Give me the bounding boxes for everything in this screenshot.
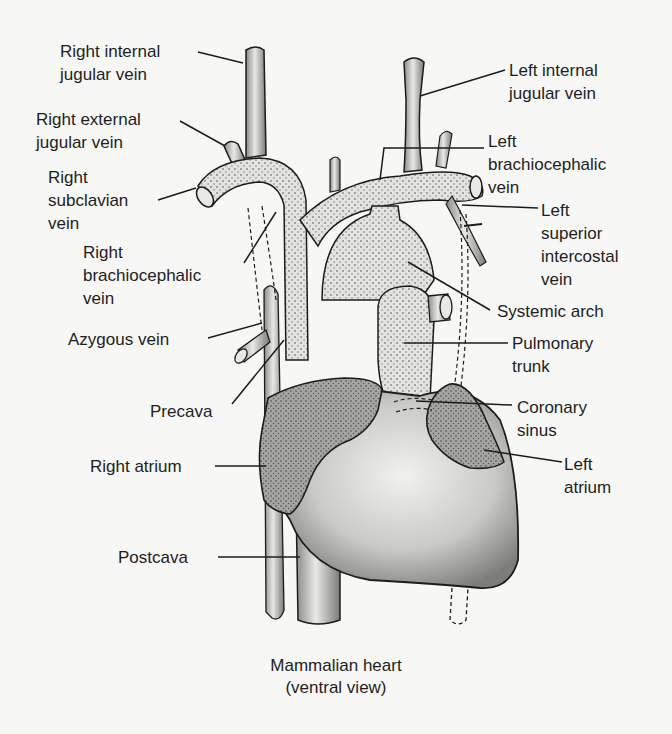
label-line: Systemic arch <box>497 300 604 323</box>
label-line: superior <box>541 222 618 245</box>
label-line: Right internal <box>60 40 160 63</box>
label-left-internal-jugular-vein: Left internal jugular vein <box>509 59 598 105</box>
label-line: vein <box>541 268 618 291</box>
figure-caption: Mammalian heart (ventral view) <box>0 655 672 699</box>
label-right-external-jugular-vein: Right external jugular vein <box>36 108 141 154</box>
label-line: Precava <box>150 400 212 423</box>
left-superior-intercostal-vein-shape <box>446 196 486 266</box>
label-line: vein <box>48 212 128 235</box>
label-systemic-arch: Systemic arch <box>497 300 604 323</box>
label-line: Postcava <box>118 546 188 569</box>
label-right-subclavian-vein: Right subclavian vein <box>48 166 128 235</box>
label-line: Right <box>83 241 201 264</box>
label-right-internal-jugular-vein: Right internal jugular vein <box>60 40 160 86</box>
label-line: trunk <box>512 355 593 378</box>
label-line: Right <box>48 166 128 189</box>
label-line: Right external <box>36 108 141 131</box>
label-left-superior-intercostal-vein: Left superior intercostal vein <box>541 199 618 291</box>
label-line: Pulmonary <box>512 332 593 355</box>
label-line: sinus <box>517 419 587 442</box>
label-precava: Precava <box>150 400 212 423</box>
label-azygous-vein: Azygous vein <box>68 328 169 351</box>
label-right-atrium: Right atrium <box>90 455 182 478</box>
label-line: brachiocephalic <box>83 264 201 287</box>
label-left-brachiocephalic-vein: Left brachiocephalic vein <box>488 130 606 199</box>
heart-diagram: Right internal jugular vein Right extern… <box>0 0 672 734</box>
label-line: vein <box>83 287 201 310</box>
label-line: Left <box>541 199 618 222</box>
label-line: Right atrium <box>90 455 182 478</box>
caption-title: Mammalian heart <box>0 655 672 677</box>
label-line: Left internal <box>509 59 598 82</box>
label-line: atrium <box>564 476 611 499</box>
label-line: intercostal <box>541 245 618 268</box>
label-left-atrium: Left atrium <box>564 453 611 499</box>
left-internal-jugular-vein-shape <box>404 58 424 172</box>
label-line: Left <box>564 453 611 476</box>
caption-subtitle: (ventral view) <box>0 677 672 699</box>
label-postcava: Postcava <box>118 546 188 569</box>
right-brachiocephalic-vein-shape <box>198 158 308 360</box>
label-line: jugular vein <box>36 131 141 154</box>
label-line: Coronary <box>517 396 587 419</box>
label-line: Left <box>488 130 606 153</box>
label-line: jugular vein <box>60 63 160 86</box>
label-right-brachiocephalic-vein: Right brachiocephalic vein <box>83 241 201 310</box>
label-line: brachiocephalic <box>488 153 606 176</box>
label-line: Azygous vein <box>68 328 169 351</box>
right-internal-jugular-vein-shape <box>246 47 266 158</box>
label-line: vein <box>488 176 606 199</box>
label-pulmonary-trunk: Pulmonary trunk <box>512 332 593 378</box>
label-coronary-sinus: Coronary sinus <box>517 396 587 442</box>
label-line: subclavian <box>48 189 128 212</box>
label-line: jugular vein <box>509 82 598 105</box>
